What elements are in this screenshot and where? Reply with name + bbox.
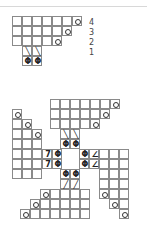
knit-cell xyxy=(12,159,22,169)
knit-cell xyxy=(90,109,100,119)
knit-cell xyxy=(40,209,50,219)
knit-cell xyxy=(22,169,32,179)
knit-cell xyxy=(60,209,70,219)
yarn-over-cell xyxy=(52,36,62,46)
knit-cell xyxy=(70,189,80,199)
knit-cell xyxy=(32,139,42,149)
yarn-over-cell xyxy=(30,199,40,209)
knit-cell xyxy=(52,16,62,26)
knit-cell xyxy=(109,189,119,199)
knit-cell xyxy=(32,159,42,169)
decrease-cell: ∠ xyxy=(89,149,99,159)
knit-cell xyxy=(100,99,110,109)
decrease-cell: 7 xyxy=(42,149,52,159)
decrease-cell: Φ xyxy=(52,159,62,169)
row-number-3: 3 xyxy=(89,29,94,37)
knit-cell xyxy=(80,109,90,119)
decrease-cell: Φ xyxy=(79,159,89,169)
yarn-over-cell xyxy=(100,109,110,119)
knit-cell xyxy=(70,109,80,119)
knit-cell xyxy=(60,189,70,199)
knit-cell xyxy=(22,139,32,149)
knit-cell xyxy=(60,199,70,209)
row-number-2: 2 xyxy=(89,39,94,47)
knit-cell xyxy=(12,36,22,46)
decrease-cell: Φ xyxy=(22,56,32,66)
yarn-over-cell xyxy=(32,129,42,139)
decrease-cell: ╲ xyxy=(70,129,80,139)
knit-cell xyxy=(32,169,42,179)
decrease-cell: Φ xyxy=(60,139,70,149)
yarn-over-cell xyxy=(12,109,22,119)
yarn-over-cell xyxy=(22,119,32,129)
knit-cell xyxy=(50,199,60,209)
knit-cell xyxy=(70,119,80,129)
knit-cell xyxy=(109,179,119,189)
knit-cell xyxy=(99,159,109,169)
knit-cell xyxy=(32,149,42,159)
knit-cell xyxy=(60,109,70,119)
knit-cell xyxy=(12,26,22,36)
decrease-cell: ╱ xyxy=(70,179,80,189)
decrease-cell: Φ xyxy=(32,56,42,66)
knit-cell xyxy=(119,159,129,169)
decrease-cell: Φ xyxy=(70,169,80,179)
knit-cell xyxy=(42,16,52,26)
yarn-over-cell xyxy=(20,209,30,219)
knit-cell xyxy=(60,119,70,129)
row-number-1: 1 xyxy=(89,49,94,57)
knit-cell xyxy=(80,99,90,109)
yarn-over-cell xyxy=(119,209,129,219)
knit-cell xyxy=(42,36,52,46)
knit-cell xyxy=(32,26,42,36)
yarn-over-cell xyxy=(62,26,72,36)
decrease-cell: ╲ xyxy=(60,129,70,139)
knit-cell xyxy=(22,36,32,46)
knit-cell xyxy=(50,119,60,129)
yarn-over-cell xyxy=(99,189,109,199)
knit-cell xyxy=(50,209,60,219)
knit-cell xyxy=(80,209,90,219)
knit-cell xyxy=(119,199,129,209)
knit-cell xyxy=(62,16,72,26)
knit-cell xyxy=(52,26,62,36)
decrease-cell: 7 xyxy=(42,159,52,169)
knit-cell xyxy=(32,16,42,26)
decrease-cell: ╱ xyxy=(60,179,70,189)
knit-cell xyxy=(50,99,60,109)
knit-cell xyxy=(80,119,90,129)
yarn-over-cell xyxy=(110,99,120,109)
knit-cell xyxy=(22,129,32,139)
knit-cell xyxy=(50,109,60,119)
knit-cell xyxy=(40,199,50,209)
knit-cell xyxy=(12,16,22,26)
knit-cell xyxy=(12,129,22,139)
knit-cell xyxy=(119,149,129,159)
stitch-symbol-icon: ∠ xyxy=(90,160,100,170)
knit-cell xyxy=(119,189,129,199)
knit-cell xyxy=(12,149,22,159)
row-number-4: 4 xyxy=(89,19,94,27)
knitting-chart: ╲╲ΦΦ╲╲ΦΦ77ΦΦΦΦ∠∠ΦΦ╱╱ xyxy=(0,0,147,237)
knit-cell xyxy=(70,209,80,219)
knit-cell xyxy=(119,179,129,189)
knit-cell xyxy=(80,189,90,199)
decrease-cell: Φ xyxy=(70,139,80,149)
knit-cell xyxy=(90,99,100,109)
decrease-cell: ∠ xyxy=(89,159,99,169)
knit-cell xyxy=(42,26,52,36)
knit-cell xyxy=(70,199,80,209)
knit-cell xyxy=(109,169,119,179)
knit-cell xyxy=(30,209,40,219)
yarn-over-cell xyxy=(109,199,119,209)
knit-cell xyxy=(12,119,22,129)
knit-cell xyxy=(12,169,22,179)
knit-cell xyxy=(109,159,119,169)
knit-cell xyxy=(22,26,32,36)
decrease-cell: Φ xyxy=(79,149,89,159)
knit-cell xyxy=(99,169,109,179)
decrease-cell: Φ xyxy=(60,169,70,179)
yarn-over-cell xyxy=(40,189,50,199)
knit-cell xyxy=(22,159,32,169)
decrease-cell: ╲ xyxy=(22,46,32,56)
